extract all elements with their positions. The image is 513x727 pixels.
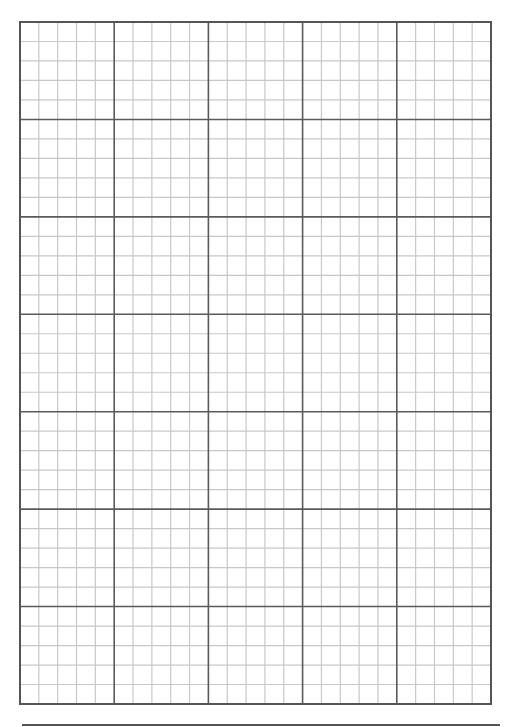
- bottom-rule-line: [22, 724, 500, 726]
- grid-border: [20, 22, 491, 704]
- major-gridlines: [20, 22, 491, 704]
- minor-gridlines: [20, 22, 491, 704]
- graph-paper-grid: [0, 0, 513, 727]
